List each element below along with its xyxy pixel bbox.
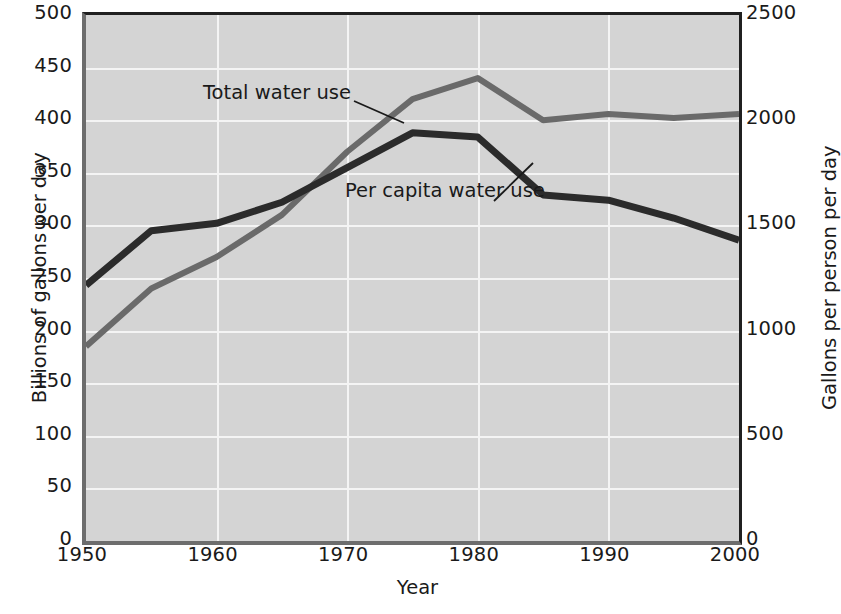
plot-inner [86,15,739,541]
x-axis-tick-1960: 1960 [168,545,258,565]
series-layer [86,15,739,541]
y-axis-right-title: Gallons per person per day [820,128,840,428]
y-axis-left-tick-50: 50 [2,476,72,496]
y-axis-right-tick-1000: 1000 [746,319,796,339]
x-axis-tick-1970: 1970 [298,545,388,565]
y-axis-left-tick-350: 350 [2,161,72,181]
x-axis-title: Year [0,578,835,598]
annotation-per-capita-water-use: Per capita water use [345,181,545,201]
y-axis-right-tick-500: 500 [746,424,784,444]
y-axis-left-tick-150: 150 [2,371,72,391]
y-axis-left-tick-200: 200 [2,319,72,339]
y-axis-left-tick-500: 500 [2,3,72,23]
x-axis-tick-1980: 1980 [429,545,519,565]
x-axis-tick-1950: 1950 [37,545,127,565]
line-per-capita-water-use [86,133,739,286]
y-axis-right-tick-2000: 2000 [746,108,796,128]
annotation-total-water-use: Total water use [203,83,351,103]
plot-area [82,12,742,545]
y-axis-left-tick-400: 400 [2,108,72,128]
y-axis-right-tick-2500: 2500 [746,3,796,23]
x-axis-tick-2000: 2000 [690,545,780,565]
y-axis-left-tick-100: 100 [2,424,72,444]
y-axis-left-tick-450: 450 [2,56,72,76]
y-axis-left-tick-250: 250 [2,266,72,286]
x-axis-tick-1990: 1990 [559,545,649,565]
y-axis-left-tick-300: 300 [2,213,72,233]
y-axis-right-tick-1500: 1500 [746,213,796,233]
